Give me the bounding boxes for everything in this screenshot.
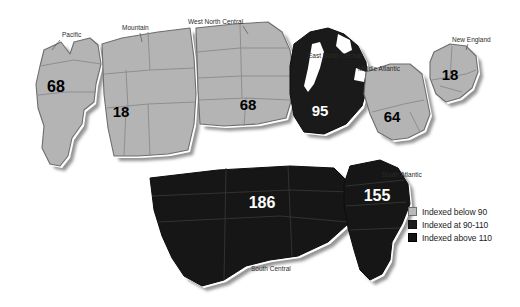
region-mountain[interactable]: 18 bbox=[102, 28, 196, 156]
legend-label-90-110: Indexed at 90-110 bbox=[422, 220, 488, 230]
map-legend: Indexed below 90 Indexed at 90-110 Index… bbox=[408, 205, 516, 244]
legend-swatch-icon-above-110 bbox=[408, 233, 417, 242]
legend-item-90-110[interactable]: Indexed at 90-110 bbox=[408, 218, 516, 231]
legend-item-below-90[interactable]: Indexed below 90 bbox=[408, 205, 516, 218]
legend-label-below-90: Indexed below 90 bbox=[422, 207, 487, 217]
legend-swatch-icon-below-90 bbox=[408, 207, 417, 216]
legend-item-above-110[interactable]: Indexed above 110 bbox=[408, 231, 516, 244]
legend-swatch-icon-90-110 bbox=[408, 220, 417, 229]
legend-label-above-110: Indexed above 110 bbox=[422, 233, 492, 243]
us-regional-index-map: 68 Pacific 18 Mountain 68 West North Cen… bbox=[0, 0, 520, 307]
region-west-north-central[interactable]: 68 bbox=[196, 22, 294, 126]
